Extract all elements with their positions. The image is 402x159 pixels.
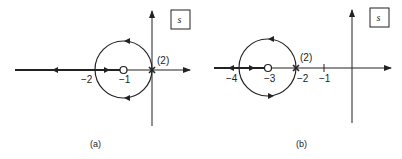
circle-arrow-top-icon	[268, 36, 274, 42]
locus-arrow-right-icon	[249, 65, 255, 71]
panel-a: (2) −2 −1 s (a)	[15, 10, 190, 149]
axis-label-minus-4: −4	[226, 73, 238, 84]
multiplicity-label: (2)	[300, 52, 312, 63]
locus-arrow-left-icon	[228, 65, 234, 71]
zero-marker	[265, 65, 272, 72]
root-locus-figure: (2) −2 −1 s (a) (2) −4 −3 −2 −1 s (b)	[0, 0, 402, 159]
locus-arrow-right-icon	[104, 67, 110, 73]
circle-arrow-bottom-icon	[268, 93, 274, 99]
panel-caption: (a)	[90, 139, 101, 149]
axis-label-minus-3: −3	[264, 73, 276, 84]
locus-arrow-left-icon	[52, 67, 58, 73]
circle-arrow-bottom-icon	[124, 95, 130, 101]
axis-label-minus-2: −2	[81, 74, 93, 85]
axis-label-minus-2: −2	[297, 73, 309, 84]
axis-label-minus-1: −1	[319, 73, 331, 84]
axis-label-minus-1: −1	[119, 74, 131, 85]
panel-b: (2) −4 −3 −2 −1 s (b)	[214, 8, 391, 149]
multiplicity-label: (2)	[157, 55, 169, 66]
s-plane-label: s	[377, 12, 381, 23]
zero-marker	[120, 67, 127, 74]
panel-caption: (b)	[296, 139, 307, 149]
s-plane-label: s	[178, 14, 182, 25]
circle-arrow-top-icon	[124, 38, 130, 44]
